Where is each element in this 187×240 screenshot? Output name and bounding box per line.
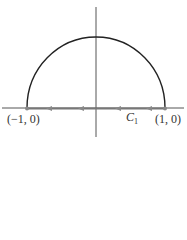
arrow-left-icon bbox=[78, 106, 84, 111]
label-left-point: (−1, 0) bbox=[7, 113, 40, 125]
contour-subscript: 1 bbox=[134, 117, 138, 126]
arrow-left-icon bbox=[115, 106, 121, 111]
label-right-point: (1, 0) bbox=[155, 113, 181, 125]
contour-name: C bbox=[126, 110, 134, 124]
point-one bbox=[163, 107, 167, 111]
point-minus-one bbox=[25, 107, 29, 111]
label-contour-c1: C1 bbox=[126, 111, 138, 126]
arrow-left-icon bbox=[46, 106, 52, 111]
arrow-left-icon bbox=[146, 106, 152, 111]
